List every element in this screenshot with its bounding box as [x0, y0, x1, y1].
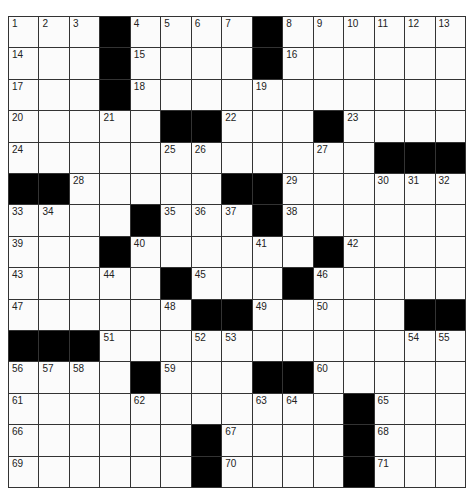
- grid-cell[interactable]: [253, 425, 282, 455]
- grid-cell[interactable]: [222, 143, 251, 173]
- grid-cell[interactable]: [100, 205, 129, 235]
- grid-cell[interactable]: [222, 362, 251, 392]
- grid-cell[interactable]: 9: [314, 17, 343, 47]
- grid-cell[interactable]: 33: [9, 205, 38, 235]
- grid-cell[interactable]: [253, 268, 282, 298]
- grid-cell[interactable]: 1: [9, 17, 38, 47]
- grid-cell[interactable]: [283, 300, 312, 330]
- grid-cell[interactable]: 35: [161, 205, 190, 235]
- grid-cell[interactable]: [283, 143, 312, 173]
- grid-cell[interactable]: 61: [9, 394, 38, 424]
- grid-cell[interactable]: [405, 394, 434, 424]
- grid-cell[interactable]: [161, 425, 190, 455]
- grid-cell[interactable]: [405, 205, 434, 235]
- grid-cell[interactable]: [375, 80, 404, 110]
- grid-cell[interactable]: 69: [9, 457, 38, 487]
- grid-cell[interactable]: 15: [131, 48, 160, 78]
- grid-cell[interactable]: [70, 300, 99, 330]
- grid-cell[interactable]: [283, 80, 312, 110]
- grid-cell[interactable]: 2: [39, 17, 68, 47]
- grid-cell[interactable]: [222, 237, 251, 267]
- grid-cell[interactable]: 16: [283, 48, 312, 78]
- grid-cell[interactable]: 34: [39, 205, 68, 235]
- grid-cell[interactable]: [436, 48, 465, 78]
- grid-cell[interactable]: 4: [131, 17, 160, 47]
- grid-cell[interactable]: 7: [222, 17, 251, 47]
- grid-cell[interactable]: [100, 143, 129, 173]
- grid-cell[interactable]: 60: [314, 362, 343, 392]
- grid-cell[interactable]: [344, 300, 373, 330]
- grid-cell[interactable]: 49: [253, 300, 282, 330]
- grid-cell[interactable]: [375, 205, 404, 235]
- grid-cell[interactable]: [375, 237, 404, 267]
- grid-cell[interactable]: [131, 174, 160, 204]
- grid-cell[interactable]: [131, 111, 160, 141]
- grid-cell[interactable]: 12: [405, 17, 434, 47]
- grid-cell[interactable]: [100, 300, 129, 330]
- grid-cell[interactable]: [405, 237, 434, 267]
- grid-cell[interactable]: [39, 237, 68, 267]
- grid-cell[interactable]: 51: [100, 331, 129, 361]
- grid-cell[interactable]: 67: [222, 425, 251, 455]
- grid-cell[interactable]: 56: [9, 362, 38, 392]
- grid-cell[interactable]: 22: [222, 111, 251, 141]
- grid-cell[interactable]: [405, 80, 434, 110]
- grid-cell[interactable]: [100, 394, 129, 424]
- grid-cell[interactable]: [70, 111, 99, 141]
- grid-cell[interactable]: [70, 143, 99, 173]
- grid-cell[interactable]: 29: [283, 174, 312, 204]
- grid-cell[interactable]: 3: [70, 17, 99, 47]
- grid-cell[interactable]: 38: [283, 205, 312, 235]
- grid-cell[interactable]: [436, 237, 465, 267]
- grid-cell[interactable]: 39: [9, 237, 38, 267]
- grid-cell[interactable]: [375, 48, 404, 78]
- grid-cell[interactable]: [161, 457, 190, 487]
- grid-cell[interactable]: [222, 268, 251, 298]
- grid-cell[interactable]: 30: [375, 174, 404, 204]
- grid-cell[interactable]: [70, 268, 99, 298]
- grid-cell[interactable]: 70: [222, 457, 251, 487]
- grid-cell[interactable]: 6: [192, 17, 221, 47]
- grid-cell[interactable]: 45: [192, 268, 221, 298]
- grid-cell[interactable]: 13: [436, 17, 465, 47]
- grid-cell[interactable]: [131, 300, 160, 330]
- grid-cell[interactable]: 54: [405, 331, 434, 361]
- grid-cell[interactable]: [314, 205, 343, 235]
- grid-cell[interactable]: [344, 48, 373, 78]
- grid-cell[interactable]: [314, 80, 343, 110]
- grid-cell[interactable]: [375, 331, 404, 361]
- grid-cell[interactable]: [344, 80, 373, 110]
- grid-cell[interactable]: [405, 457, 434, 487]
- grid-cell[interactable]: 55: [436, 331, 465, 361]
- grid-cell[interactable]: [314, 331, 343, 361]
- grid-cell[interactable]: [222, 48, 251, 78]
- grid-cell[interactable]: 20: [9, 111, 38, 141]
- grid-cell[interactable]: [344, 362, 373, 392]
- grid-cell[interactable]: [100, 362, 129, 392]
- grid-cell[interactable]: [375, 362, 404, 392]
- grid-cell[interactable]: 43: [9, 268, 38, 298]
- grid-cell[interactable]: [436, 268, 465, 298]
- grid-cell[interactable]: 11: [375, 17, 404, 47]
- grid-cell[interactable]: [283, 425, 312, 455]
- grid-cell[interactable]: [436, 425, 465, 455]
- grid-cell[interactable]: 14: [9, 48, 38, 78]
- grid-cell[interactable]: 17: [9, 80, 38, 110]
- grid-cell[interactable]: 63: [253, 394, 282, 424]
- grid-cell[interactable]: 31: [405, 174, 434, 204]
- grid-cell[interactable]: 62: [131, 394, 160, 424]
- grid-cell[interactable]: [39, 80, 68, 110]
- grid-cell[interactable]: [405, 268, 434, 298]
- grid-cell[interactable]: 64: [283, 394, 312, 424]
- grid-cell[interactable]: [253, 457, 282, 487]
- grid-cell[interactable]: 41: [253, 237, 282, 267]
- grid-cell[interactable]: [253, 331, 282, 361]
- grid-cell[interactable]: [344, 268, 373, 298]
- grid-cell[interactable]: [39, 425, 68, 455]
- grid-cell[interactable]: 21: [100, 111, 129, 141]
- grid-cell[interactable]: [405, 111, 434, 141]
- grid-cell[interactable]: 48: [161, 300, 190, 330]
- grid-cell[interactable]: [314, 48, 343, 78]
- grid-cell[interactable]: [436, 205, 465, 235]
- grid-cell[interactable]: [283, 111, 312, 141]
